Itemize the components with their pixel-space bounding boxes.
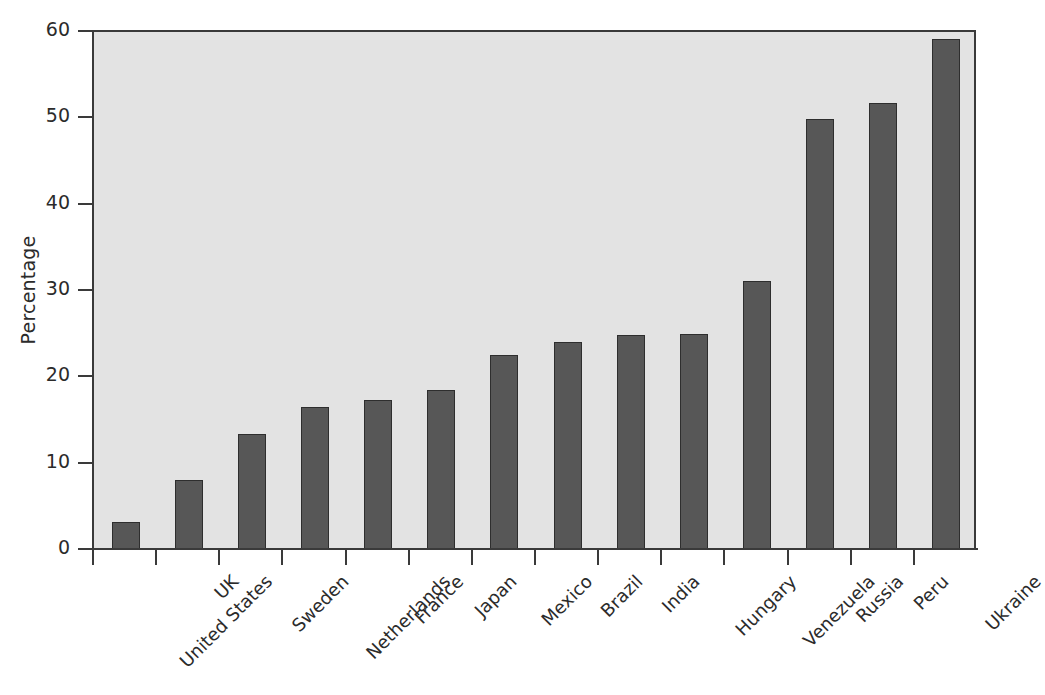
bar bbox=[175, 480, 203, 549]
x-tick-label: Brazil bbox=[598, 572, 646, 620]
plot-area bbox=[92, 30, 976, 549]
x-tick-label: Hungary bbox=[733, 572, 800, 639]
x-tick-mark bbox=[787, 550, 789, 565]
bar bbox=[869, 103, 897, 549]
bar bbox=[490, 355, 518, 549]
bar bbox=[112, 522, 140, 549]
bar bbox=[743, 281, 771, 549]
x-tick-label: Peru bbox=[911, 572, 952, 613]
y-tick-mark bbox=[78, 203, 92, 205]
bar bbox=[806, 119, 834, 549]
bars-container bbox=[94, 32, 976, 549]
x-tick-mark bbox=[850, 550, 852, 565]
x-tick-mark bbox=[345, 550, 347, 565]
y-tick-label: 60 bbox=[8, 20, 70, 39]
x-tick-mark bbox=[471, 550, 473, 565]
x-tick-mark bbox=[92, 550, 94, 565]
y-tick-label: 0 bbox=[8, 538, 70, 557]
bar bbox=[932, 39, 960, 549]
bar bbox=[427, 390, 455, 549]
y-tick-mark bbox=[78, 375, 92, 377]
bar bbox=[301, 407, 329, 549]
x-tick-label: Ukraine bbox=[982, 572, 1044, 634]
y-tick-label: 50 bbox=[8, 106, 70, 125]
y-tick-mark bbox=[78, 116, 92, 118]
x-tick-label: India bbox=[659, 572, 703, 616]
x-tick-label: Mexico bbox=[538, 572, 595, 629]
x-tick-mark bbox=[723, 550, 725, 565]
x-tick-mark bbox=[218, 550, 220, 565]
bar bbox=[364, 400, 392, 549]
y-tick-mark bbox=[78, 462, 92, 464]
y-tick-mark bbox=[78, 548, 92, 550]
bar bbox=[617, 335, 645, 549]
y-tick-label: 10 bbox=[8, 452, 70, 471]
bar bbox=[680, 334, 708, 549]
x-tick-mark bbox=[660, 550, 662, 565]
y-tick-label: 40 bbox=[8, 193, 70, 212]
y-tick-mark bbox=[78, 30, 92, 32]
plot-right-edge bbox=[974, 30, 976, 550]
x-tick-mark bbox=[913, 550, 915, 565]
x-tick-mark bbox=[597, 550, 599, 565]
x-tick-mark bbox=[408, 550, 410, 565]
x-tick-mark bbox=[155, 550, 157, 565]
y-tick-mark bbox=[78, 289, 92, 291]
x-tick-label: Japan bbox=[472, 572, 520, 620]
x-tick-mark bbox=[281, 550, 283, 565]
bar bbox=[554, 342, 582, 549]
x-tick-mark bbox=[534, 550, 536, 565]
x-axis-line bbox=[78, 548, 978, 550]
y-tick-label: 20 bbox=[8, 365, 70, 384]
x-tick-label: Sweden bbox=[289, 572, 352, 635]
bar bbox=[238, 434, 266, 549]
y-tick-label: 30 bbox=[8, 279, 70, 298]
